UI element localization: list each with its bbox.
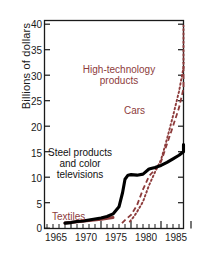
annotation-textiles: Textiles bbox=[52, 211, 85, 222]
y-axis-ticks bbox=[45, 24, 51, 228]
annotation-high-technology-products-line1: High-technology bbox=[71, 64, 167, 75]
annotation-steel-products-line2: and color bbox=[30, 158, 130, 169]
annotation-high-technology-products: High-technology products bbox=[71, 64, 167, 86]
annotation-steel-products-line1: Steel products bbox=[30, 147, 130, 158]
series-high-technology-products bbox=[130, 26, 184, 222]
annotation-steel-products: Steel products and color televisions bbox=[30, 147, 130, 180]
series-cars bbox=[122, 62, 184, 223]
chart-figure: Billions of dollars 40 35 30 25 20 15 10… bbox=[0, 0, 199, 256]
x-axis-minor-ticks bbox=[47, 224, 179, 229]
plot-frame bbox=[45, 21, 184, 229]
annotation-cars: Cars bbox=[124, 105, 145, 116]
plot-svg bbox=[0, 0, 199, 256]
annotation-high-technology-products-line2: products bbox=[71, 75, 167, 86]
annotation-steel-products-line3: televisions bbox=[30, 169, 130, 180]
